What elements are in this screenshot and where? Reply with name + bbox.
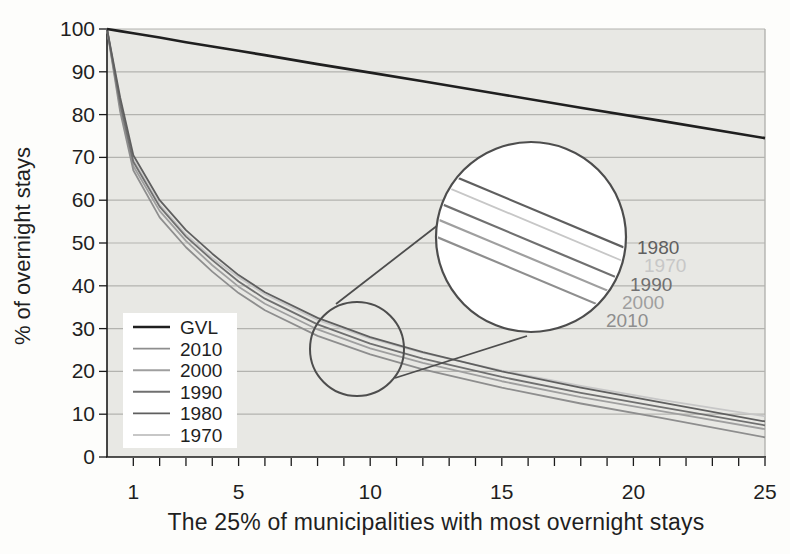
y-tick-label-30: 30 [72,317,95,340]
y-tick-label-100: 100 [60,17,95,40]
x-tick-label-25: 25 [753,480,776,503]
lens-label-1970: 1970 [644,255,686,276]
x-tick-label-5: 5 [233,480,245,503]
legend-label-gvl: GVL [180,317,218,338]
y-tick-label-50: 50 [72,231,95,254]
legend-label-1980: 1980 [180,403,222,424]
y-tick-label-10: 10 [72,402,95,425]
lens-label-2010: 2010 [606,310,648,331]
legend-label-1970: 1970 [180,425,222,446]
x-tick-label-15: 15 [490,480,513,503]
y-tick-label-80: 80 [72,103,95,126]
y-tick-label-70: 70 [72,145,95,168]
y-tick-label-20: 20 [72,359,95,382]
x-tick-label-1: 1 [127,480,139,503]
lorenz-curve-figure: 01020304050607080901001510152025GVL20102… [0,0,790,554]
x-axis-title: The 25% of municipalities with most over… [107,509,765,536]
x-tick-label-20: 20 [622,480,645,503]
chart-svg: 01020304050607080901001510152025GVL20102… [0,0,790,554]
y-tick-label-40: 40 [72,274,95,297]
legend-label-2010: 2010 [180,339,222,360]
y-tick-label-0: 0 [83,445,95,468]
y-tick-label-60: 60 [72,188,95,211]
x-tick-label-10: 10 [359,480,382,503]
y-tick-label-90: 90 [72,60,95,83]
y-axis-title: % of overnight stays [10,96,38,396]
legend-label-1990: 1990 [180,382,222,403]
legend-label-2000: 2000 [180,360,222,381]
